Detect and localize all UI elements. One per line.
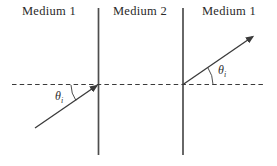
region-label-medium2: Medium 2 — [113, 4, 167, 18]
transmitted-angle-label: θi — [218, 63, 226, 79]
transmitted-angle-arc — [208, 68, 213, 85]
incident-angle-label: θi — [55, 89, 63, 105]
refraction-diagram: Medium 1 Medium 2 Medium 1 θi θi — [0, 0, 277, 166]
diagram-canvas: Medium 1 Medium 2 Medium 1 θi θi — [0, 0, 277, 166]
transmitted-ray — [183, 37, 253, 85]
incident-ray — [35, 86, 97, 128]
region-label-medium1-right: Medium 1 — [202, 4, 256, 18]
incident-angle-arc — [71, 85, 76, 100]
region-label-medium1-left: Medium 1 — [22, 4, 76, 18]
